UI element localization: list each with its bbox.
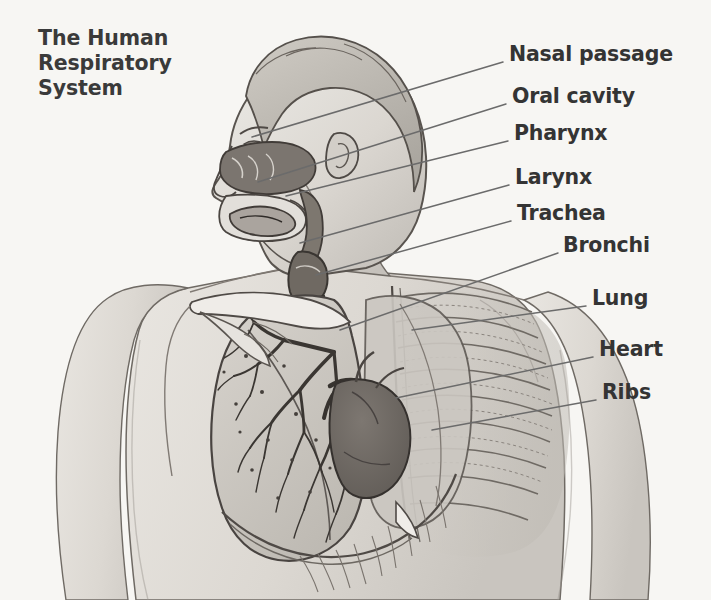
page-title: The Human Respiratory System xyxy=(38,26,268,101)
label-heart: Heart xyxy=(599,338,663,360)
label-larynx: Larynx xyxy=(515,166,592,188)
label-pharynx: Pharynx xyxy=(514,122,607,144)
label-nasal-passage: Nasal passage xyxy=(509,43,673,65)
label-trachea: Trachea xyxy=(517,202,606,224)
label-ribs: Ribs xyxy=(602,381,651,403)
label-lung: Lung xyxy=(592,287,648,309)
label-oral-cavity: Oral cavity xyxy=(512,85,635,107)
respiratory-system-diagram: The Human Respiratory System Nasal passa… xyxy=(0,0,711,600)
label-bronchi: Bronchi xyxy=(563,234,650,256)
